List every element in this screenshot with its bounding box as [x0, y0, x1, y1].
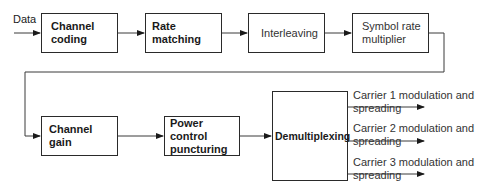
- output-label-carrier-2: Carrier 2 modulation and spreading: [353, 122, 474, 147]
- block-label: Demultiplexing: [273, 130, 350, 143]
- block-demultiplexing: Demultiplexing: [272, 91, 348, 181]
- data-input-label: Data: [13, 13, 36, 26]
- block-power-control-puncturing: Power control puncturing: [164, 116, 240, 156]
- block-rate-matching: Rate matching: [145, 13, 222, 53]
- block-label: Channel gain: [42, 123, 117, 149]
- output-label-carrier-3: Carrier 3 modulation and spreading: [353, 156, 474, 181]
- block-label: Channel coding: [42, 20, 94, 46]
- block-channel-gain: Channel gain: [41, 116, 118, 156]
- block-symbol-rate-multiplier: Symbol rate multiplier: [352, 13, 429, 53]
- block-interleaving: Interleaving: [248, 13, 325, 53]
- block-label: Rate matching: [146, 20, 221, 46]
- block-label: Power control puncturing: [165, 117, 239, 156]
- block-channel-coding: Channel coding: [41, 13, 118, 53]
- block-label: Symbol rate multiplier: [353, 20, 421, 46]
- block-label: Interleaving: [249, 27, 318, 40]
- output-label-carrier-1: Carrier 1 modulation and spreading: [353, 89, 474, 114]
